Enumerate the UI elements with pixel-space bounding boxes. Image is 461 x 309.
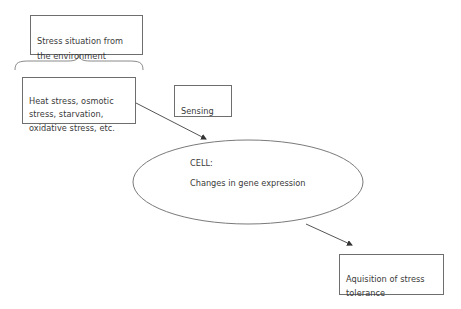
cell-subtitle: Changes in gene expression [190,177,306,189]
stress-response-diagram: Stress situation from the environment He… [0,0,461,309]
tolerance-box: Aquisition of stress tolerance [339,254,444,295]
stress-types-box: Heat stress, osmotic stress, starvation,… [22,77,136,124]
environment-box: Stress situation from the environment [30,15,143,55]
tolerance-label: Aquisition of stress tolerance [346,274,425,298]
sensing-box: Sensing [174,85,232,117]
arrow-cell-to-tolerance [306,224,352,245]
sensing-label: Sensing [181,106,214,116]
stress-types-label: Heat stress, osmotic stress, starvation,… [29,96,115,133]
cell-title: CELL: [190,157,213,169]
